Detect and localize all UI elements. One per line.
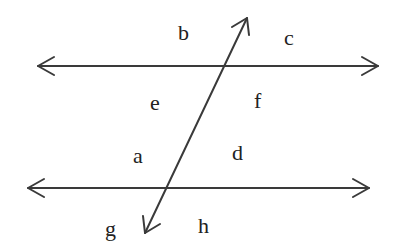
angle-label-b: b [178,20,189,45]
transversal-line [143,18,249,233]
transversal-diagram: b c e f a d g h [0,0,394,245]
angle-label-h: h [198,213,209,238]
bottom-parallel-line [28,179,369,197]
angle-label-a: a [133,143,143,168]
angle-label-c: c [284,25,294,50]
angle-label-e: e [150,90,160,115]
angle-label-f: f [254,88,262,113]
angle-label-d: d [232,140,243,165]
angle-label-g: g [105,216,116,241]
top-parallel-line [38,57,378,75]
